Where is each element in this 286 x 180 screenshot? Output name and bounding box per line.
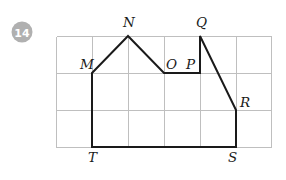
vertex-label-r: R xyxy=(239,94,250,110)
vertex-label-q: Q xyxy=(196,14,207,30)
grid-lines xyxy=(57,37,272,148)
vertex-label-n: N xyxy=(122,14,136,30)
vertex-label-t: T xyxy=(88,149,98,165)
vertex-label-o: O xyxy=(166,56,177,72)
vertex-label-m: M xyxy=(79,56,95,72)
figure-container: 14 MNOPQRST xyxy=(0,0,286,180)
geometry-figure: 14 MNOPQRST xyxy=(0,0,286,180)
problem-number-badge: 14 xyxy=(12,22,33,43)
vertex-label-p: P xyxy=(185,56,196,72)
badge-label: 14 xyxy=(14,27,30,40)
vertex-label-s: S xyxy=(228,149,237,165)
